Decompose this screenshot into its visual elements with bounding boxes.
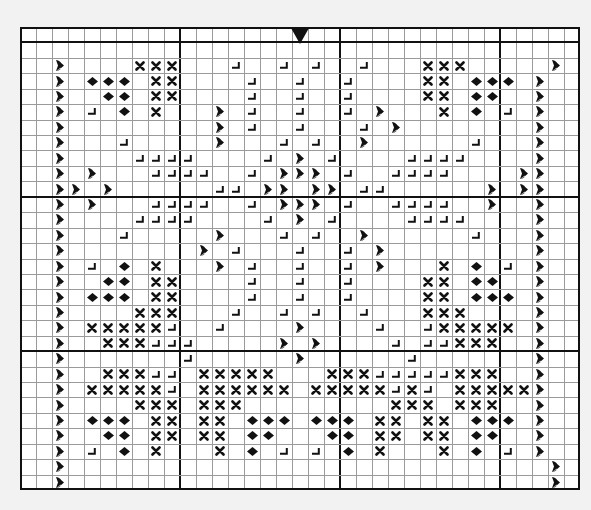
grid-hline (20, 459, 580, 460)
heart-symbol-icon (356, 228, 372, 243)
cross-symbol-icon (100, 336, 116, 351)
cross-symbol-icon (420, 397, 436, 412)
diamond-symbol-icon (500, 413, 516, 428)
heart-symbol-icon (356, 135, 372, 150)
cross-symbol-icon (212, 382, 228, 397)
corner-symbol-icon (420, 197, 436, 212)
heart-symbol-icon (52, 259, 68, 274)
diamond-symbol-icon (84, 413, 100, 428)
corner-symbol-icon (260, 212, 276, 227)
corner-symbol-icon (164, 320, 180, 335)
diamond-symbol-icon (484, 89, 500, 104)
corner-symbol-icon (132, 150, 148, 165)
heart-symbol-icon (308, 166, 324, 181)
heart-symbol-icon (292, 351, 308, 366)
heart-symbol-icon (52, 274, 68, 289)
corner-symbol-icon (404, 150, 420, 165)
heart-symbol-icon (484, 181, 500, 196)
diamond-symbol-icon (244, 413, 260, 428)
cross-symbol-icon (484, 397, 500, 412)
diamond-symbol-icon (484, 73, 500, 88)
diamond-symbol-icon (468, 289, 484, 304)
cross-symbol-icon (212, 428, 228, 443)
corner-symbol-icon (244, 120, 260, 135)
corner-symbol-icon (84, 444, 100, 459)
corner-symbol-icon (116, 135, 132, 150)
cross-symbol-icon (340, 382, 356, 397)
heart-symbol-icon (52, 228, 68, 243)
corner-symbol-icon (420, 320, 436, 335)
corner-symbol-icon (388, 336, 404, 351)
cross-symbol-icon (372, 413, 388, 428)
cross-symbol-icon (420, 58, 436, 73)
heart-symbol-icon (292, 320, 308, 335)
corner-symbol-icon (500, 104, 516, 119)
heart-symbol-icon (308, 197, 324, 212)
diamond-symbol-icon (484, 428, 500, 443)
grid-hline (20, 444, 580, 445)
heart-symbol-icon (52, 305, 68, 320)
cross-symbol-icon (500, 382, 516, 397)
corner-symbol-icon (164, 150, 180, 165)
cross-symbol-icon (116, 336, 132, 351)
diamond-symbol-icon (260, 413, 276, 428)
cross-symbol-icon (452, 367, 468, 382)
cross-symbol-icon (468, 382, 484, 397)
cross-symbol-icon (84, 382, 100, 397)
heart-symbol-icon (68, 181, 84, 196)
heart-symbol-icon (276, 166, 292, 181)
heart-symbol-icon (532, 228, 548, 243)
corner-symbol-icon (196, 166, 212, 181)
heart-symbol-icon (532, 274, 548, 289)
corner-symbol-icon (292, 120, 308, 135)
corner-symbol-icon (244, 197, 260, 212)
heart-symbol-icon (52, 243, 68, 258)
cross-symbol-icon (436, 320, 452, 335)
corner-symbol-icon (148, 150, 164, 165)
corner-symbol-icon (372, 320, 388, 335)
cross-symbol-icon (116, 367, 132, 382)
cross-symbol-icon (164, 305, 180, 320)
heart-symbol-icon (212, 228, 228, 243)
corner-symbol-icon (340, 289, 356, 304)
cross-symbol-icon (452, 336, 468, 351)
heart-symbol-icon (52, 289, 68, 304)
corner-symbol-icon (148, 212, 164, 227)
diamond-symbol-icon (116, 413, 132, 428)
corner-symbol-icon (260, 150, 276, 165)
corner-symbol-icon (356, 305, 372, 320)
heart-symbol-icon (52, 58, 68, 73)
cross-symbol-icon (164, 428, 180, 443)
cross-symbol-icon (148, 58, 164, 73)
cross-symbol-icon (148, 382, 164, 397)
cross-symbol-icon (164, 58, 180, 73)
heart-symbol-icon (52, 135, 68, 150)
heart-symbol-icon (532, 181, 548, 196)
corner-symbol-icon (212, 320, 228, 335)
heart-symbol-icon (532, 382, 548, 397)
heart-symbol-icon (212, 120, 228, 135)
corner-symbol-icon (164, 166, 180, 181)
corner-symbol-icon (436, 166, 452, 181)
heart-symbol-icon (52, 367, 68, 382)
heart-symbol-icon (516, 166, 532, 181)
corner-symbol-icon (404, 212, 420, 227)
heart-symbol-icon (532, 397, 548, 412)
corner-symbol-icon (148, 367, 164, 382)
corner-symbol-icon (340, 166, 356, 181)
diamond-symbol-icon (100, 274, 116, 289)
corner-symbol-icon (500, 259, 516, 274)
heart-symbol-icon (276, 336, 292, 351)
cross-symbol-icon (212, 413, 228, 428)
cross-symbol-icon (468, 336, 484, 351)
cross-symbol-icon (420, 305, 436, 320)
cross-symbol-icon (516, 382, 532, 397)
corner-symbol-icon (228, 58, 244, 73)
cross-symbol-icon (132, 336, 148, 351)
heart-symbol-icon (532, 336, 548, 351)
corner-symbol-icon (468, 135, 484, 150)
heart-symbol-icon (532, 166, 548, 181)
corner-symbol-icon (420, 150, 436, 165)
corner-symbol-icon (340, 89, 356, 104)
heart-symbol-icon (100, 181, 116, 196)
